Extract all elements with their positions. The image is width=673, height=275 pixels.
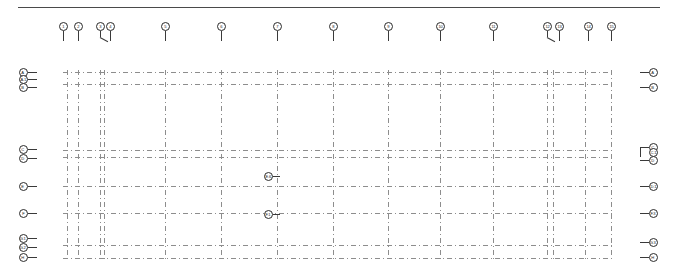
gridline-vertical <box>100 70 101 262</box>
grid-bubble-label: 4 <box>109 24 111 28</box>
grid-bubble-label: 7 <box>276 24 278 28</box>
gridline-horizontal <box>63 84 615 85</box>
grid-bubble-label: B <box>22 85 24 89</box>
column-grid-bubble-4[interactable]: 4 <box>106 22 115 31</box>
grid-bubble-label: A <box>652 70 654 74</box>
grid-bubble-label: 2 <box>77 24 79 28</box>
row-grid-bubble-left-c[interactable]: C <box>19 145 28 154</box>
grid-leader-line <box>493 31 494 41</box>
grid-leader-line <box>640 186 649 187</box>
grid-leader-line <box>63 31 64 41</box>
row-grid-bubble-right-g-3[interactable]: G.3 <box>649 238 658 247</box>
grid-leader-line <box>640 242 649 243</box>
grid-bubble-label: B <box>652 85 654 89</box>
column-grid-bubble-10[interactable]: 10 <box>436 22 445 31</box>
grid-leader-line <box>28 72 37 73</box>
grid-leader-line <box>273 214 280 215</box>
grid-leader-line <box>640 160 649 161</box>
grid-bubble-label: 3 <box>99 24 101 28</box>
row-grid-bubble-left-h[interactable]: H <box>19 253 28 262</box>
grid-bubble-label: E <box>22 184 24 188</box>
drawing-sheet: 123456789101112131415 AA.1BCDEFG.1G.2H A… <box>0 0 673 275</box>
grid-leader-jog <box>547 37 555 42</box>
row-grid-bubble-left-d[interactable]: D <box>19 154 28 163</box>
column-grid-bubble-9[interactable]: 9 <box>384 22 393 31</box>
grid-bubble-label: C.1 <box>650 150 656 154</box>
grid-bubble-label: 8 <box>332 24 334 28</box>
row-grid-bubble-left-f[interactable]: F <box>19 209 28 218</box>
grid-leader-line <box>221 31 222 41</box>
grid-leader-line <box>78 31 79 41</box>
gridline-vertical <box>104 70 105 262</box>
grid-leader-line <box>640 213 649 214</box>
grid-leader-line <box>640 87 649 88</box>
grid-leader-line <box>100 31 101 37</box>
column-grid-bubble-8[interactable]: 8 <box>329 22 338 31</box>
gridline-vertical <box>493 70 494 262</box>
column-grid-bubble-5[interactable]: 5 <box>161 22 170 31</box>
interior-marker-f-1[interactable]: F.1 <box>264 210 273 219</box>
column-grid-bubble-7[interactable]: 7 <box>273 22 282 31</box>
row-grid-bubble-right-d[interactable]: D <box>649 156 658 165</box>
gridline-horizontal <box>63 186 615 187</box>
gridline-horizontal <box>63 258 615 259</box>
row-grid-bubble-left-g-1[interactable]: G.1 <box>19 234 28 243</box>
grid-bubble-label: G.1 <box>20 236 26 240</box>
gridline-vertical <box>547 70 548 262</box>
column-grid-bubble-13[interactable]: 13 <box>555 22 564 31</box>
row-grid-bubble-right-h[interactable]: H <box>649 253 658 262</box>
grid-leader-line <box>277 31 278 41</box>
column-grid-bubble-14[interactable]: 14 <box>584 22 593 31</box>
grid-leader-line <box>28 87 37 88</box>
grid-leader-line <box>640 72 649 73</box>
row-grid-bubble-left-b[interactable]: B <box>19 83 28 92</box>
column-grid-bubble-12[interactable]: 12 <box>543 22 552 31</box>
grid-bubble-label: G.2 <box>20 245 26 249</box>
gridline-vertical <box>221 70 222 262</box>
grid-bubble-label: 5 <box>164 24 166 28</box>
row-grid-bubble-right-f-3[interactable]: F.3 <box>649 209 658 218</box>
grid-bubble-label: 10 <box>438 24 442 28</box>
grid-leader-line <box>28 158 37 159</box>
grid-bubble-label: H <box>22 255 25 259</box>
row-grid-bubble-left-g-2[interactable]: G.2 <box>19 243 28 252</box>
row-grid-bubble-right-d-1[interactable]: D.1 <box>649 182 658 191</box>
grid-bubble-label: H <box>652 255 655 259</box>
column-grid-bubble-15[interactable]: 15 <box>607 22 616 31</box>
grid-leader-line <box>640 147 649 148</box>
column-grid-bubble-1[interactable]: 1 <box>59 22 68 31</box>
grid-bubble-label: F.1 <box>266 212 271 216</box>
grid-bubble-label: D <box>22 156 25 160</box>
grid-leader-line <box>110 31 111 41</box>
gridline-vertical <box>165 70 166 262</box>
gridline-vertical <box>277 70 278 262</box>
grid-bubble-label: G.3 <box>650 240 656 244</box>
grid-leader-line <box>165 31 166 41</box>
grid-bubble-label: 6 <box>220 24 222 28</box>
grid-leader-line <box>640 257 649 258</box>
grid-leader-line <box>559 31 560 41</box>
grid-bubble-label: A <box>22 70 24 74</box>
gridline-horizontal <box>63 157 615 158</box>
grid-leader-line <box>388 31 389 41</box>
row-grid-bubble-right-b[interactable]: B <box>649 83 658 92</box>
row-grid-bubble-left-e[interactable]: E <box>19 182 28 191</box>
grid-leader-line <box>28 213 37 214</box>
column-grid-bubble-2[interactable]: 2 <box>74 22 83 31</box>
gridline-vertical <box>553 70 554 262</box>
grid-bubble-label: A.1 <box>20 77 25 81</box>
gridline-vertical <box>440 70 441 262</box>
row-grid-bubble-right-a[interactable]: A <box>649 68 658 77</box>
column-grid-bubble-3[interactable]: 3 <box>96 22 105 31</box>
interior-marker-e-6[interactable]: E.6 <box>264 172 273 181</box>
gridline-vertical <box>78 70 79 262</box>
grid-bubble-label: 15 <box>609 24 613 28</box>
grid-bubble-label: F.3 <box>651 211 656 215</box>
grid-bubble-label: 1 <box>62 24 64 28</box>
grid-leader-line <box>588 31 589 41</box>
column-grid-bubble-6[interactable]: 6 <box>217 22 226 31</box>
grid-leader-line <box>28 79 37 80</box>
column-grid-bubble-11[interactable]: 11 <box>489 22 498 31</box>
grid-leader-jog <box>100 37 108 42</box>
grid-leader-jog <box>640 147 641 157</box>
